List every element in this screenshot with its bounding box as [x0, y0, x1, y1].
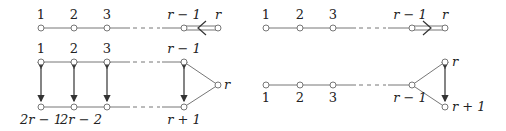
node-label: 2r − 2: [59, 112, 102, 127]
node-label: 1: [37, 7, 45, 22]
node-label: 2r − 1: [19, 112, 62, 127]
node-label: 1: [262, 7, 270, 22]
node-label: r − 1: [393, 7, 427, 22]
node-label: 3: [103, 7, 111, 22]
right-top-diagram: 1 2 3 r − 1 r: [262, 7, 449, 35]
node-label: r + 1: [452, 99, 486, 114]
node-label: 3: [329, 90, 337, 105]
node-label: 1: [37, 41, 45, 56]
node-label: r − 1: [393, 90, 427, 105]
node-label: 3: [329, 7, 337, 22]
fold-arrows: [41, 68, 184, 101]
node-label: 1: [262, 90, 270, 105]
left-top-diagram: 1 2 3 r − 1 r: [37, 7, 222, 35]
node-label: r − 1: [167, 41, 201, 56]
node-label: r: [442, 7, 449, 22]
node-label: 2: [296, 90, 304, 105]
dynkin-diagram-figure: 1 2 3 r − 1 r 1 2 3 r − 1 r: [0, 0, 506, 131]
left-folded-diagram: 1 2 3 r − 1 r 2r − 1 2r − 2 r + 1: [19, 41, 231, 127]
arrow-left-icon: [198, 21, 206, 35]
arrow-right-icon: [423, 21, 431, 35]
node-label: 2: [70, 7, 78, 22]
node-label: r: [215, 7, 222, 22]
node-label: r: [452, 54, 459, 69]
node-label: 2: [296, 7, 304, 22]
node-label: 2: [70, 41, 78, 56]
node-label: r + 1: [167, 112, 201, 127]
node-label: r: [224, 77, 231, 92]
right-forked-diagram: 1 2 3 r − 1 r r + 1: [262, 54, 486, 114]
node-label: r − 1: [167, 7, 201, 22]
node-label: 3: [103, 41, 111, 56]
